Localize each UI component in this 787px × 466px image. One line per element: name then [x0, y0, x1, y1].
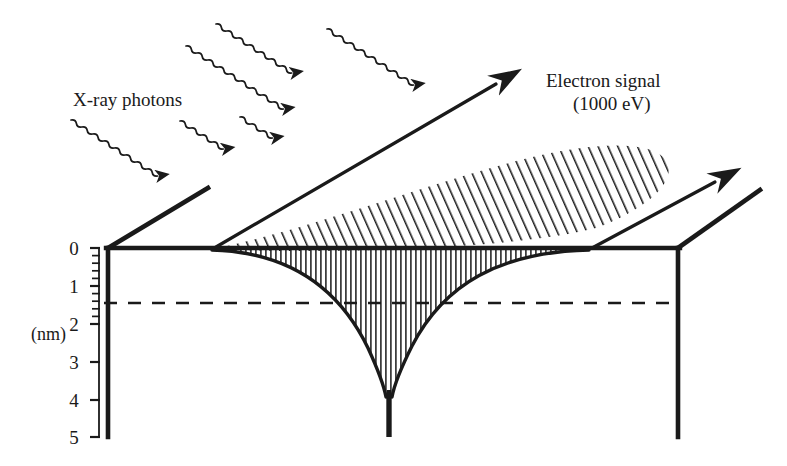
- xray-beam-1: [216, 15, 292, 82]
- depth-tick-label-5: 5: [69, 427, 79, 448]
- figure-canvas: X-ray photons Electron signal (1000 eV): [0, 0, 787, 466]
- depth-axis-units-label: (nm): [31, 324, 66, 345]
- xray-beam-6: [240, 113, 273, 142]
- electron-signal-label-line2: (1000 eV): [573, 93, 651, 115]
- xray-beam-5: [180, 116, 224, 154]
- xps-sampling-depth-diagram: X-ray photons Electron signal (1000 eV): [0, 0, 787, 466]
- xray-beam-3: [186, 35, 284, 121]
- depth-tick-label-1: 1: [69, 276, 79, 297]
- sample-right-perspective-edge: [678, 190, 760, 248]
- depth-tick-label-0: 0: [69, 238, 79, 259]
- depth-tick-label-4: 4: [69, 390, 79, 411]
- xray-beam-4: [71, 110, 158, 186]
- interaction-depth-funnel: [205, 248, 597, 440]
- xray-photons-label: X-ray photons: [73, 89, 182, 110]
- sample-left-perspective-edge: [108, 188, 208, 248]
- depth-tick-label-2: 2: [69, 314, 79, 335]
- electron-signal-label-line1: Electron signal: [546, 70, 661, 91]
- depth-axis: 0 1 2 3 4 5 (nm): [31, 238, 100, 448]
- xray-beam-2: [327, 19, 414, 95]
- funnel-hatch: [205, 248, 597, 440]
- depth-tick-label-3: 3: [69, 352, 79, 373]
